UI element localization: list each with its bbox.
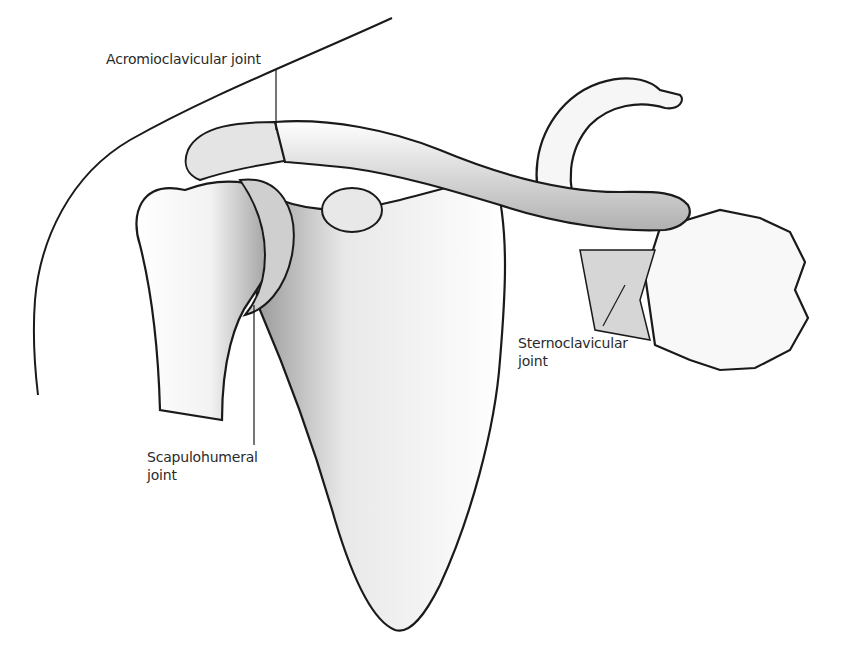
label-scapulohumeral-line2: joint xyxy=(147,466,258,484)
label-acromioclavicular: Acromioclavicular joint xyxy=(106,50,261,68)
label-scapulohumeral: Scapulohumeral joint xyxy=(147,448,258,484)
sternum xyxy=(645,210,808,370)
label-sternoclavicular: Sternoclavicular joint xyxy=(518,334,628,370)
sternum-shading xyxy=(580,250,655,340)
anatomy-illustration xyxy=(0,0,864,666)
coracoid-process xyxy=(322,188,382,232)
acromion xyxy=(186,122,290,180)
label-sternoclavicular-line2: joint xyxy=(518,352,628,370)
label-scapulohumeral-line1: Scapulohumeral xyxy=(147,448,258,466)
label-acromioclavicular-text: Acromioclavicular joint xyxy=(106,51,261,67)
label-sternoclavicular-line1: Sternoclavicular xyxy=(518,334,628,352)
shoulder-anatomy-diagram: Acromioclavicular joint Sternoclavicular… xyxy=(0,0,864,666)
